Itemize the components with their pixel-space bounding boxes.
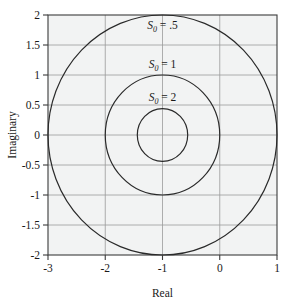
y-tick-label-1point5: 1.5 [26,39,41,51]
y-tick-label-1: 1 [34,69,40,81]
x-tick-label-1: 1 [274,262,280,274]
x-tick-label-0: 0 [217,262,223,274]
x-tick-label-neg1: -1 [158,262,168,274]
x-tick-label-neg2: -2 [100,262,110,274]
y-tick-label-0: 0 [34,129,40,141]
chart-figure: 2 1.5 1 0.5 0 -0.5 -1 -1.5 -2 -3 -2 -1 0… [0,0,302,306]
chart-svg: 2 1.5 1 0.5 0 -0.5 -1 -1.5 -2 -3 -2 -1 0… [0,0,302,306]
curve-label-1-equals: = .5 [157,19,178,31]
curve-label-2-equals: = 1 [158,58,176,70]
y-tick-label-neg2: -2 [30,249,40,261]
y-tick-label-neg1point5: -1.5 [22,219,40,231]
x-axis-title: Real [152,287,173,299]
y-tick-label-2: 2 [34,9,40,21]
y-axis-title: Imaginary [6,111,19,159]
y-tick-label-neg0point5: -0.5 [22,159,40,171]
y-tick-label-0point5: 0.5 [26,99,41,111]
y-tick-label-neg1: -1 [30,189,40,201]
curve-label-3-equals: = 2 [158,91,176,103]
x-tick-label-neg3: -3 [43,262,53,274]
